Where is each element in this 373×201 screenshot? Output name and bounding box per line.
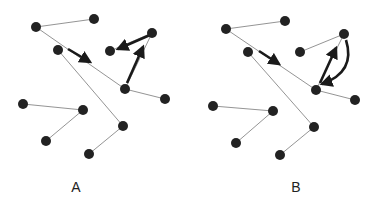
node: [350, 95, 360, 105]
edge: [125, 89, 165, 99]
node: [78, 105, 88, 115]
node: [295, 47, 305, 57]
node: [231, 138, 241, 148]
arrow-icon: [68, 49, 90, 62]
edge: [280, 127, 314, 155]
panel-b-label: B: [291, 179, 300, 195]
edge: [248, 52, 314, 127]
node: [18, 99, 28, 109]
node: [311, 85, 321, 95]
edge: [58, 50, 123, 126]
edge: [46, 110, 83, 141]
edge: [316, 90, 355, 100]
node: [31, 22, 41, 32]
network-diagram: [0, 0, 373, 201]
edge: [213, 106, 273, 111]
node: [268, 106, 278, 116]
panel-b: [208, 16, 360, 160]
arrow-icon: [322, 40, 348, 84]
panel-a: [18, 14, 170, 159]
node: [53, 45, 63, 55]
node: [118, 121, 128, 131]
edge: [36, 27, 125, 89]
node: [84, 149, 94, 159]
node: [89, 14, 99, 24]
edge: [226, 21, 285, 29]
arrow-icon: [259, 51, 279, 64]
diagram-canvas: A B: [0, 0, 373, 201]
edge: [89, 126, 123, 154]
edge: [23, 104, 83, 110]
node: [243, 47, 253, 57]
node: [339, 29, 349, 39]
node: [221, 24, 231, 34]
panel-a-label: A: [71, 179, 80, 195]
node: [275, 150, 285, 160]
node: [208, 101, 218, 111]
node: [105, 46, 115, 56]
node: [160, 94, 170, 104]
edge: [236, 111, 273, 143]
node: [41, 136, 51, 146]
node: [309, 122, 319, 132]
edge: [36, 19, 94, 27]
node: [147, 28, 157, 38]
arrow-icon: [127, 47, 143, 83]
edge: [300, 34, 344, 52]
node: [120, 84, 130, 94]
node: [280, 16, 290, 26]
